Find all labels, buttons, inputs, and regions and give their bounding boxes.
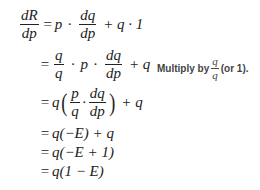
lhs-fraction: dR dp [20, 8, 39, 41]
equals-sign: = [38, 163, 52, 180]
line-5: = q(−E + 1) [38, 144, 114, 161]
frac-numerator: q [54, 48, 64, 65]
annotation: Multiply by q q (or 1). [157, 56, 249, 81]
equals-sign: = [38, 144, 52, 161]
annotation-suffix: (or 1). [221, 63, 249, 74]
frac-numerator: p [70, 86, 80, 103]
line-6: = q(1 − E) [38, 163, 104, 180]
line-2: = q q · p · dq dp + q [38, 48, 150, 81]
p-over-q-fraction: p q [70, 86, 80, 119]
dq-dp-fraction: dq dp [89, 86, 106, 119]
left-paren: ( [61, 90, 67, 116]
line-1: dR dp = p · dq dp + q · 1 [18, 8, 143, 41]
dq-dp-fraction: dq dp [105, 48, 122, 81]
line-1-rest: + q · 1 [103, 16, 143, 33]
frac-denominator: q [55, 65, 63, 81]
lhs-numerator: dR [20, 8, 39, 25]
equals-sign: = [38, 125, 52, 142]
term-p: p [55, 16, 63, 33]
right-paren: ) [109, 90, 115, 116]
equals-sign: = [38, 94, 52, 111]
frac-numerator: dq [79, 8, 96, 25]
term-q: q [52, 94, 60, 111]
equals-sign: = [38, 56, 52, 73]
line-3: = q ( p q · dq dp ) + q [38, 86, 143, 119]
frac-denominator: q [212, 69, 218, 81]
line-2-rest: + q [129, 56, 150, 73]
frac-denominator: dp [106, 65, 121, 81]
frac-denominator: dp [90, 103, 105, 119]
dq-dp-fraction: dq dp [79, 8, 96, 41]
q-over-q-fraction: q q [54, 48, 64, 81]
line-5-expr: q(−E + 1) [52, 144, 114, 161]
annotation-prefix: Multiply by [157, 63, 209, 74]
line-3-rest: + q [121, 94, 142, 111]
equals-sign: = [41, 16, 55, 33]
annotation-fraction: q q [211, 56, 219, 81]
frac-numerator: dq [105, 48, 122, 65]
term-p: p [81, 56, 89, 73]
lhs-denominator: dp [22, 25, 37, 41]
line-6-expr: q(1 − E) [52, 163, 104, 180]
line-4-expr: q(−E) + q [52, 125, 114, 142]
frac-denominator: q [71, 103, 79, 119]
frac-denominator: dp [80, 25, 95, 41]
frac-numerator: q [211, 56, 219, 69]
frac-numerator: dq [89, 86, 106, 103]
line-4: = q(−E) + q [38, 125, 114, 142]
